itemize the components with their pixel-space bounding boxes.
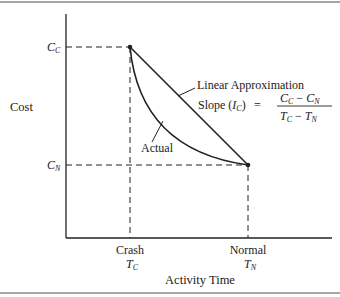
- crash-time-tick: TC: [126, 257, 139, 272]
- actual-label-pointer: [152, 121, 163, 142]
- slope-formula-equals: =: [254, 98, 261, 112]
- normal-cost-tick: CN: [47, 158, 61, 173]
- time-cost-tradeoff-diagram: Cost CC CN Crash TC Normal TN Activity T…: [0, 0, 340, 297]
- x-axis-label: Activity Time: [165, 273, 235, 287]
- slope-formula-lhs: Slope (IC): [198, 98, 246, 113]
- crash-cost-tick: CC: [47, 40, 61, 55]
- crash-point: [128, 45, 133, 50]
- linear-label-pointer: [178, 88, 195, 96]
- crash-time-label: Crash: [116, 243, 144, 257]
- normal-time-label: Normal: [230, 243, 267, 257]
- normal-time-tick: TN: [244, 257, 257, 272]
- normal-point: [246, 163, 251, 168]
- actual-label: Actual: [141, 141, 174, 155]
- formula-numerator: CC−CN: [280, 91, 320, 106]
- y-axis-label: Cost: [10, 100, 33, 114]
- linear-approximation-label: Linear Approximation: [197, 78, 304, 92]
- formula-denominator: TC−TN: [280, 109, 318, 124]
